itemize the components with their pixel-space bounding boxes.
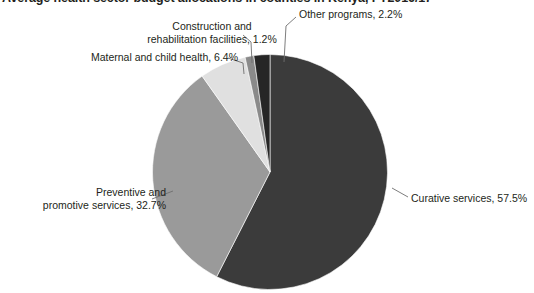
pie-label-preventive: Preventive and promotive services, 32.7% — [6, 186, 166, 212]
pie-label-other-programs: Other programs, 2.2% — [299, 8, 402, 21]
pie-slices — [153, 55, 388, 290]
chart-page: Average health sector budget allocations… — [0, 0, 534, 293]
chart-title: Average health sector budget allocations… — [2, 0, 432, 5]
pie-label-construction: Construction and rehabilitation faciliti… — [126, 20, 298, 46]
chart-title-clipped: Average health sector budget allocations… — [0, 0, 534, 9]
pie-label-maternal: Maternal and child health, 6.4% — [30, 51, 238, 64]
leader-line-curative — [392, 188, 408, 197]
pie-svg — [152, 54, 388, 290]
pie-chart — [152, 54, 388, 290]
pie-label-curative: Curative services, 57.5% — [411, 192, 527, 205]
